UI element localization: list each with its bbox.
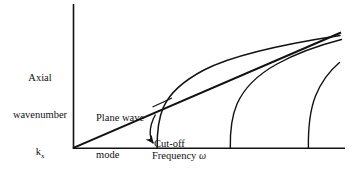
y-axis-label-symbol: kx <box>8 146 72 160</box>
y-axis-label-line2: wavenumber <box>8 109 72 121</box>
cutoff-label-line1: Cut-off <box>154 138 196 150</box>
dispersion-diagram-figure: Axial wavenumber kx Frequency ω Plane wa… <box>0 0 355 173</box>
plane-wave-mode-label: Plane wave mode <box>96 87 144 173</box>
mode-curve-3 <box>308 63 339 149</box>
y-axis-label-line1: Axial <box>8 72 72 84</box>
plane-wave-label-line2: mode <box>96 149 144 161</box>
cutoff-frequency-label: Cut-off frequency <box>154 113 196 173</box>
y-axis-symbol-subscript: x <box>41 152 45 160</box>
omega-symbol: ω <box>199 150 206 161</box>
plane-wave-label-line1: Plane wave <box>96 112 144 124</box>
y-axis-label: Axial wavenumber kx <box>8 47 72 173</box>
